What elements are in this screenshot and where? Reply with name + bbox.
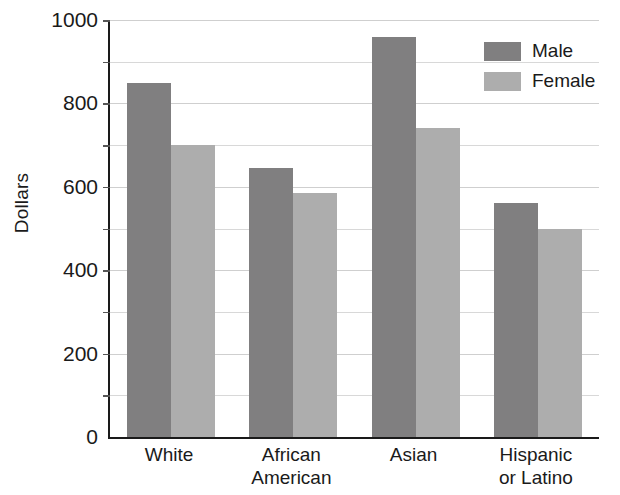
x-axis-label-line: Hispanic <box>475 443 597 466</box>
y-axis-tick-label: 200 <box>38 343 98 364</box>
y-axis-title: Dollars <box>11 143 33 263</box>
bar-group <box>355 20 477 437</box>
bar-group <box>110 20 232 437</box>
bar-male[interactable] <box>249 168 293 437</box>
legend-label: Male <box>532 40 573 62</box>
x-axis-label-line: American <box>230 466 352 489</box>
bar-male[interactable] <box>494 203 538 437</box>
y-axis-tick-label: 0 <box>38 426 98 447</box>
y-axis-tickmark <box>103 145 110 147</box>
x-axis-tick-label: White <box>108 443 230 466</box>
legend: MaleFemale <box>484 36 614 96</box>
y-axis-tickmark <box>103 187 110 189</box>
bar-female[interactable] <box>293 193 337 437</box>
y-axis-tick-labels: 02004006008001000 <box>38 0 98 495</box>
x-axis-label-line: or Latino <box>475 466 597 489</box>
y-axis-tick-label: 1000 <box>38 9 98 30</box>
x-axis-tick-label: Asian <box>353 443 475 466</box>
y-axis-tickmark <box>103 62 110 64</box>
y-axis-tickmark <box>103 395 110 397</box>
x-axis-label-line: African <box>230 443 352 466</box>
x-axis-tick-labels: WhiteAfricanAmericanAsianHispanicor Lati… <box>108 443 597 495</box>
legend-item-male[interactable]: Male <box>484 36 614 66</box>
bar-female[interactable] <box>538 229 582 438</box>
y-axis-tickmark <box>103 312 110 314</box>
y-axis-tick-label: 400 <box>38 259 98 280</box>
y-axis-tickmark <box>103 20 110 22</box>
x-axis-label-line: White <box>108 443 230 466</box>
y-axis-tickmark <box>103 270 110 272</box>
legend-swatch-icon <box>484 42 521 61</box>
x-axis-tick-label: AfricanAmerican <box>230 443 352 489</box>
x-axis-tick-label: Hispanicor Latino <box>475 443 597 489</box>
y-axis-tickmark <box>103 354 110 356</box>
bar-male[interactable] <box>127 83 171 437</box>
legend-item-female[interactable]: Female <box>484 66 614 96</box>
bar-group <box>232 20 354 437</box>
x-axis-label-line: Asian <box>353 443 475 466</box>
y-axis-tickmark <box>103 229 110 231</box>
legend-swatch-icon <box>484 72 521 91</box>
y-axis-tick-label: 800 <box>38 92 98 113</box>
y-axis-tick-label: 600 <box>38 176 98 197</box>
bar-male[interactable] <box>372 37 416 437</box>
legend-label: Female <box>532 70 595 92</box>
bar-chart: Dollars 02004006008001000 WhiteAfricanAm… <box>0 0 620 495</box>
y-axis-tickmark <box>103 103 110 105</box>
bar-female[interactable] <box>416 128 460 437</box>
bar-female[interactable] <box>171 145 215 437</box>
